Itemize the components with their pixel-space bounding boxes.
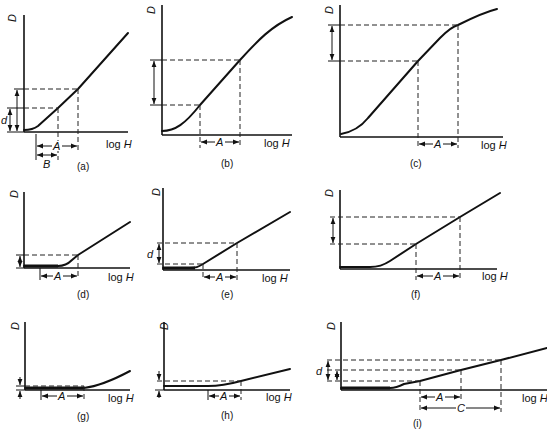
panel-h-y-label: D (158, 322, 170, 330)
panel-d-y-label: D (8, 190, 20, 198)
panel-i-C-label: C (457, 402, 465, 414)
panel-g-x-label: log H (108, 392, 134, 404)
panel-c-curve (341, 9, 497, 134)
panel-a-axes (24, 15, 128, 132)
panel-d-x-label: log H (108, 271, 134, 283)
panel-a-y-label: D (6, 14, 18, 22)
panel-d-curve (24, 222, 130, 266)
panel-a-B-label: B (43, 158, 50, 170)
panel-e-A-label: A (215, 271, 223, 283)
panel-i-d-label: d (316, 365, 323, 377)
panel-a-A-label: A (52, 140, 60, 152)
panel-c-y-label-visible: D (323, 6, 335, 14)
panel-i-caption: (i) (413, 418, 422, 429)
panel-d: D A log H (d) (8, 190, 134, 300)
panel-e-d-label: d (147, 248, 154, 260)
panel-e-curve (163, 212, 290, 268)
panel-b: D A log H (b) (145, 5, 292, 169)
panel-f: D A log H (f) (323, 189, 508, 300)
panel-e-y-label: D (150, 188, 162, 196)
characteristic-curves-figure: D d A B log H (a) D A log H (0, 0, 547, 433)
panel-e-caption: (e) (221, 289, 233, 300)
panel-b-y-label: D (145, 6, 157, 14)
panel-i-A-label: A (435, 391, 443, 403)
panel-h-curve (164, 369, 290, 386)
panel-a-caption: (a) (77, 161, 89, 172)
panel-i-y-label: D (325, 322, 337, 330)
panel-c-A-label: A (433, 138, 441, 150)
panel-f-y-label: D (323, 189, 335, 197)
panel-h-A-label: A (219, 390, 227, 402)
panel-c: D D A log H (c) (323, 5, 516, 169)
panel-f-curve (340, 193, 500, 267)
panel-b-A-label: A (215, 136, 223, 148)
panel-g-A-label: A (57, 390, 65, 402)
panel-i-x-label: log H (522, 392, 547, 404)
panel-g-y-label: D (9, 322, 21, 330)
panel-f-caption: (f) (411, 289, 420, 300)
panel-g-caption: (g) (77, 411, 89, 422)
panel-e: D d A log H (e) (147, 188, 290, 300)
panel-d-caption: (d) (77, 289, 89, 300)
panel-a: D d A B log H (a) (1, 14, 132, 172)
panel-a-curve (24, 33, 128, 130)
panel-c-x-label: log H (481, 139, 507, 151)
panel-b-curve (162, 17, 292, 131)
panel-f-A-label: A (433, 270, 441, 282)
panel-e-x-label: log H (262, 272, 288, 284)
panel-h: D A log H (h) (155, 322, 292, 421)
panel-g-curve (25, 371, 130, 388)
panel-g: D A log H (g) (9, 322, 134, 422)
panel-b-x-label: log H (264, 137, 290, 149)
panel-c-caption: (c) (410, 158, 422, 169)
panel-a-d-label: d (1, 114, 8, 126)
panel-i-curve (341, 348, 547, 388)
panel-h-x-label: log H (266, 391, 292, 403)
panel-f-x-label: log H (482, 270, 508, 282)
panel-b-caption: (b) (221, 158, 233, 169)
panel-d-A-label: A (53, 270, 61, 282)
panel-h-caption: (h) (221, 410, 233, 421)
panel-i: D d A C log H (i) (316, 322, 547, 429)
panel-a-x-label: log H (106, 138, 132, 150)
